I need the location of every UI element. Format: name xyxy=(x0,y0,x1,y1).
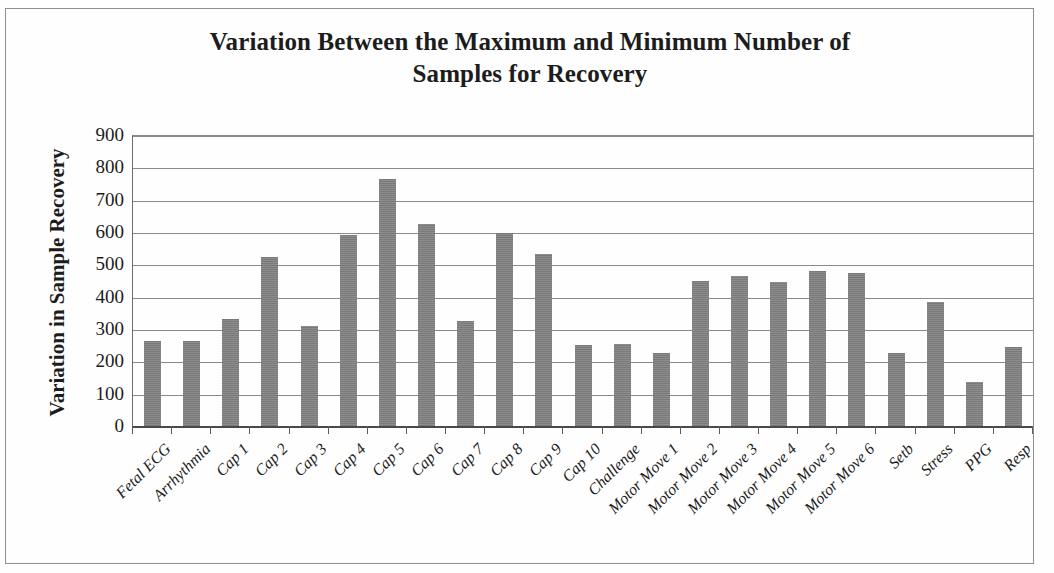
x-tick xyxy=(602,426,603,434)
chart-title-line-2: Samples for Recovery xyxy=(90,58,970,90)
x-tick xyxy=(523,426,524,434)
x-tick xyxy=(954,426,955,434)
bar[interactable] xyxy=(301,326,318,427)
chart-title-line-1: Variation Between the Maximum and Minimu… xyxy=(90,26,970,58)
bar[interactable] xyxy=(457,321,474,427)
x-tick xyxy=(758,426,759,434)
x-tick xyxy=(562,426,563,434)
bar[interactable] xyxy=(614,344,631,427)
x-tick xyxy=(680,426,681,434)
y-axis-tick-labels: 9008007006005004003002001000 xyxy=(76,135,124,426)
x-tick xyxy=(249,426,250,434)
x-tick xyxy=(132,426,133,434)
x-tick xyxy=(171,426,172,434)
x-tick xyxy=(445,426,446,434)
bar[interactable] xyxy=(183,341,200,427)
bar[interactable] xyxy=(888,353,905,427)
y-tick-label: 800 xyxy=(76,156,124,178)
y-tick-label: 400 xyxy=(76,286,124,308)
x-tick xyxy=(641,426,642,434)
x-tick xyxy=(993,426,994,434)
plot-area xyxy=(132,135,1033,427)
bar[interactable] xyxy=(966,382,983,427)
bar[interactable] xyxy=(1005,347,1022,427)
x-tick xyxy=(797,426,798,434)
x-tick xyxy=(1032,426,1033,434)
x-tick xyxy=(367,426,368,434)
bar[interactable] xyxy=(692,281,709,427)
chart-title: Variation Between the Maximum and Minimu… xyxy=(90,26,970,90)
bar[interactable] xyxy=(535,254,552,427)
x-tick xyxy=(328,426,329,434)
y-tick-label: 700 xyxy=(76,189,124,211)
bar[interactable] xyxy=(731,276,748,427)
bar[interactable] xyxy=(379,179,396,427)
x-tick xyxy=(875,426,876,434)
bar[interactable] xyxy=(927,302,944,427)
bar[interactable] xyxy=(261,257,278,427)
x-tick xyxy=(484,426,485,434)
y-tick-label: 300 xyxy=(76,318,124,340)
bar[interactable] xyxy=(418,224,435,427)
bar[interactable] xyxy=(144,341,161,427)
x-tick xyxy=(406,426,407,434)
bar[interactable] xyxy=(222,319,239,427)
bar[interactable] xyxy=(809,271,826,427)
x-tick xyxy=(210,426,211,434)
bars-layer xyxy=(133,136,1033,427)
chart-figure: Variation Between the Maximum and Minimu… xyxy=(0,0,1054,573)
bar[interactable] xyxy=(496,233,513,427)
bar[interactable] xyxy=(770,282,787,427)
x-tick xyxy=(836,426,837,434)
bar[interactable] xyxy=(340,235,357,427)
y-tick-label: 900 xyxy=(76,124,124,146)
y-tick-label: 0 xyxy=(76,415,124,437)
bar[interactable] xyxy=(653,353,670,427)
bar[interactable] xyxy=(848,273,865,427)
y-tick-label: 600 xyxy=(76,221,124,243)
y-tick-label: 500 xyxy=(76,253,124,275)
bar[interactable] xyxy=(575,345,592,427)
x-tick xyxy=(915,426,916,434)
x-tick xyxy=(289,426,290,434)
x-axis-ticks xyxy=(132,426,1033,435)
y-tick-label: 200 xyxy=(76,350,124,372)
y-tick-label: 100 xyxy=(76,383,124,405)
x-tick xyxy=(719,426,720,434)
y-axis-title: Variation in Sample Recovery xyxy=(45,118,70,448)
